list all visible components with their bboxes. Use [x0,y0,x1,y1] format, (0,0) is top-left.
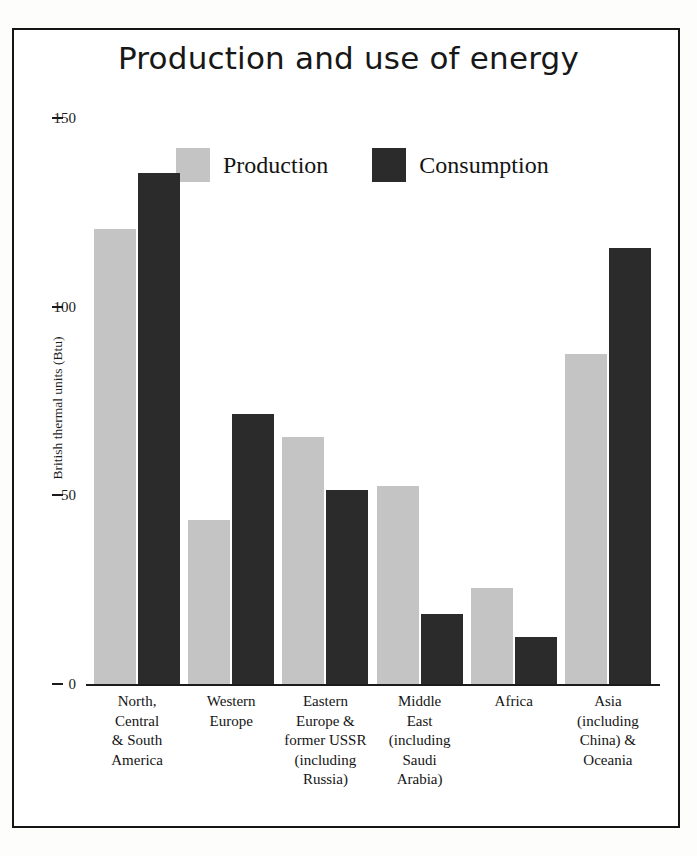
bar-production[interactable] [282,437,324,686]
bar-production[interactable] [471,588,513,686]
bar-production[interactable] [188,520,230,686]
bar-consumption[interactable] [138,173,180,686]
x-axis-category-label: WesternEurope [184,692,278,731]
bar-group [90,110,184,686]
x-axis-baseline [86,684,660,686]
bar-consumption[interactable] [232,414,274,686]
bar-group [278,110,372,686]
bar-consumption[interactable] [421,614,463,686]
y-axis-tick-mark [52,117,63,119]
x-axis-category-labels: North,Central& SouthAmericaWesternEurope… [90,692,655,822]
bar-group [373,110,467,686]
x-axis-category-label: Africa [467,692,561,712]
y-axis-tick-mark [52,683,63,685]
page-title: Production and use of energy [0,40,697,76]
x-axis-category-label: EasternEurope &former USSR(includingRuss… [278,692,372,790]
bar-group [467,110,561,686]
bar-group [561,110,655,686]
x-axis-category-label: MiddleEast(includingSaudiArabia) [373,692,467,790]
bar-consumption[interactable] [515,637,557,686]
bar-production[interactable] [377,486,419,686]
y-axis-tick-label: 0 [69,676,77,693]
bar-consumption[interactable] [326,490,368,686]
bar-group [184,110,278,686]
chart-page: Production and use of energy 050100150 B… [0,0,697,856]
x-axis-category-label: Asia(includingChina) &Oceania [561,692,655,770]
bar-production[interactable] [94,229,136,686]
x-axis-category-label: North,Central& SouthAmerica [90,692,184,770]
bar-consumption[interactable] [609,248,651,686]
plot-area [90,110,655,686]
y-axis-title: British thermal units (Btu) [50,288,66,528]
bar-production[interactable] [565,354,607,686]
